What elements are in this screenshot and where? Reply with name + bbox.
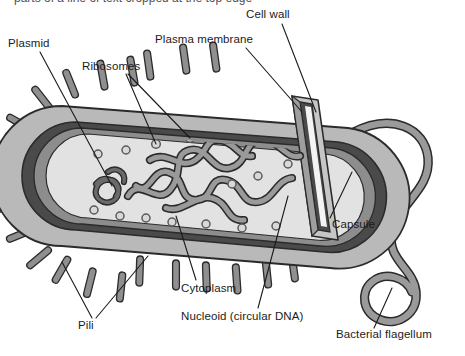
pilus: [83, 267, 97, 298]
leader-plasma-membrane: [246, 48, 302, 112]
pilus: [62, 68, 80, 98]
pilus: [136, 256, 144, 286]
bacterial-cell-diagram: [0, 0, 465, 356]
pilus: [209, 42, 220, 73]
ribosome: [254, 172, 262, 180]
ribosome: [202, 220, 210, 228]
pilus: [179, 44, 190, 75]
label-plasma-membrane: Plasma membrane: [155, 34, 253, 46]
pilus: [51, 255, 72, 284]
ribosome: [116, 212, 124, 220]
label-nucleoid: Nucleoid (circular DNA): [181, 311, 303, 323]
ribosome: [228, 180, 236, 188]
pilus: [25, 246, 52, 270]
pilus: [143, 50, 154, 81]
label-pili: Pili: [78, 320, 94, 332]
label-bacterial-flagellum: Bacterial flagellum: [336, 329, 432, 341]
label-capsule: Capsule: [332, 219, 375, 231]
label-cytoplasm: Cytoplasm: [181, 283, 236, 295]
ribosome: [142, 214, 150, 222]
ribosome: [168, 218, 176, 226]
label-ribosomes: Ribosomes: [82, 61, 140, 73]
ribosome: [122, 146, 130, 154]
label-plasmid: Plasmid: [8, 38, 50, 50]
leader-pili-b: [96, 256, 148, 318]
label-cell-wall: Cell wall: [246, 9, 290, 21]
ribosome: [90, 206, 98, 214]
ribosome: [284, 160, 292, 168]
ribosome: [238, 224, 246, 232]
pilus: [116, 272, 126, 303]
pilus: [173, 260, 180, 290]
